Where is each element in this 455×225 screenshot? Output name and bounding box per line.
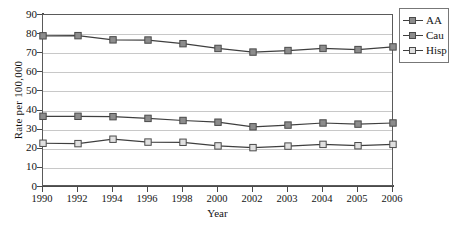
data-point-marker [145,37,151,43]
y-axis-tick-label: 30 [11,123,37,134]
series-cau [40,32,396,55]
data-point-marker [320,45,326,51]
legend-marker-icon [403,15,423,26]
legend-marker-icon [403,45,423,56]
data-point-marker [390,120,396,126]
data-point-marker [215,45,221,51]
data-point-marker [390,44,396,50]
x-axis-tick-label: 2006 [369,194,415,205]
x-axis-tick-mark [322,187,323,192]
legend-label: Hisp [426,45,447,56]
data-point-marker [355,121,361,127]
data-point-marker [75,140,81,146]
data-point-marker [180,139,186,145]
legend: AACauHisp [399,8,449,63]
x-axis-tick-mark [42,187,43,192]
series-aa [40,113,396,130]
data-point-marker [285,122,291,128]
data-point-marker [215,143,221,149]
data-point-marker [250,49,256,55]
data-point-marker [40,113,46,119]
line-chart-figure: Rate per 100,000 9080706050403020100 199… [0,0,455,225]
data-point-marker [40,140,46,146]
x-axis-tick-mark [252,187,253,192]
y-axis-tick-label: 50 [11,85,37,96]
legend-label: Cau [426,30,444,41]
y-axis-tick-label: 70 [11,47,37,58]
x-axis-tick-mark [217,187,218,192]
data-point-marker [110,37,116,43]
data-point-marker [40,33,46,39]
data-point-marker [180,117,186,123]
series-hisp [40,136,396,151]
data-point-marker [180,40,186,46]
data-point-marker [145,115,151,121]
y-axis-tick-label: 90 [11,9,37,20]
data-point-marker [110,136,116,142]
legend-item-hisp[interactable]: Hisp [403,43,445,58]
x-axis-tick-mark [287,187,288,192]
data-point-marker [250,144,256,150]
y-axis-tick-label: 60 [11,66,37,77]
data-point-marker [390,141,396,147]
y-axis-tick-label: 20 [11,142,37,153]
legend-label: AA [426,15,442,26]
x-axis-tick-mark [357,187,358,192]
data-point-marker [285,143,291,149]
legend-item-aa[interactable]: AA [403,13,445,28]
x-axis-tick-mark [392,187,393,192]
data-point-marker [145,139,151,145]
y-axis-tick-label: 80 [11,28,37,39]
series-layer [43,15,394,187]
data-point-marker [355,46,361,52]
data-point-marker [320,120,326,126]
x-axis-tick-mark [112,187,113,192]
data-point-marker [75,113,81,119]
data-point-marker [75,32,81,38]
legend-marker-icon [403,30,423,41]
data-point-marker [250,124,256,130]
data-point-marker [110,113,116,119]
data-point-marker [320,141,326,147]
y-axis-tick-label: 40 [11,104,37,115]
x-axis-title: Year [0,207,435,219]
x-axis-tick-mark [147,187,148,192]
y-axis-tick-label: 10 [11,161,37,172]
x-axis-tick-mark [182,187,183,192]
x-axis-tick-mark [77,187,78,192]
data-point-marker [285,47,291,53]
legend-item-cau[interactable]: Cau [403,28,445,43]
plot-area [42,14,393,186]
data-point-marker [355,143,361,149]
y-axis-tick-label: 0 [11,181,37,192]
data-point-marker [215,119,221,125]
